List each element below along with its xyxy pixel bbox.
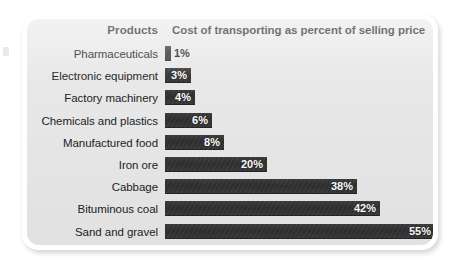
bar-track: 1% [165,46,429,63]
bar-value-label: 20% [241,158,263,171]
value-column-header: Cost of transporting as percent of selli… [172,24,425,36]
bar [165,201,380,216]
bar-track: 38% [165,179,429,196]
bar-value-label: 4% [169,91,191,104]
chart-row: Pharmaceuticals1% [27,45,433,67]
row-category-label: Chemicals and plastics [27,115,158,127]
chart-row: Sand and gravel55% [27,223,433,245]
chart-header-row: Products Cost of transporting as percent… [27,24,433,43]
row-category-label: Sand and gravel [27,226,158,238]
row-category-label: Electronic equipment [27,70,158,82]
bar-value-label: 55% [409,225,431,238]
bar-track: 20% [165,157,429,174]
scan-artifact [3,47,9,56]
chart-row: Manufactured food8% [27,134,433,156]
bar-value-label: 38% [331,180,353,193]
row-category-label: Cabbage [27,181,158,193]
bar-track: 6% [165,113,429,130]
bar-value-label: 3% [165,69,187,82]
bar-track: 3% [165,68,429,85]
bar [165,179,357,194]
bar-value-label: 1% [174,47,190,60]
chart-row: Chemicals and plastics6% [27,112,433,134]
bar-track: 55% [165,224,429,241]
bar-value-label: 42% [354,202,376,215]
bar [165,46,171,61]
products-column-header: Products [27,24,158,36]
row-category-label: Manufactured food [27,137,158,149]
chart-row: Bituminous coal42% [27,200,433,222]
row-category-label: Bituminous coal [27,203,158,215]
bar-chart-card: Products Cost of transporting as percent… [27,19,433,245]
chart-row: Cabbage38% [27,178,433,200]
row-category-label: Pharmaceuticals [27,48,158,60]
row-category-label: Factory machinery [27,92,158,104]
bar-value-label: 8% [198,136,220,149]
chart-inner: Products Cost of transporting as percent… [27,19,433,245]
chart-row: Electronic equipment3% [27,67,433,89]
chart-rows: Pharmaceuticals1%Electronic equipment3%F… [27,45,433,245]
row-category-label: Iron ore [27,159,158,171]
bar-track: 4% [165,90,429,107]
bar-track: 8% [165,135,429,152]
bar [165,224,433,239]
bar-track: 42% [165,201,429,218]
chart-row: Factory machinery4% [27,89,433,111]
bar-value-label: 6% [186,114,208,127]
chart-row: Iron ore20% [27,156,433,178]
